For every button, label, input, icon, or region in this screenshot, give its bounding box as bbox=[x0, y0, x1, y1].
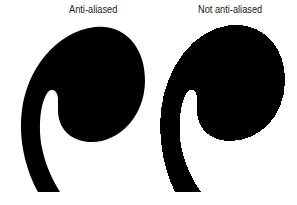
anti-aliased-glyph-icon bbox=[21, 27, 145, 192]
comparison-canvas bbox=[0, 0, 297, 205]
not-anti-aliased-glyph-icon bbox=[160, 25, 285, 192]
